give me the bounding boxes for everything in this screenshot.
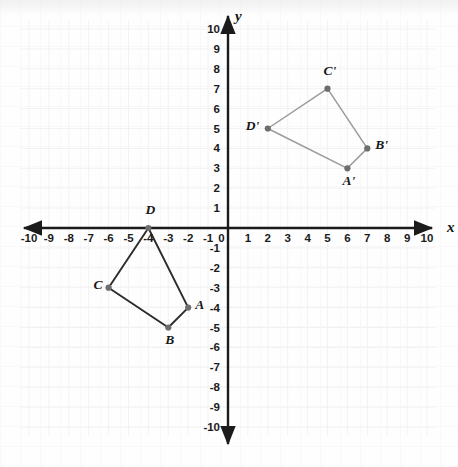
- x-tick--8: -8: [58, 232, 80, 244]
- x-tick--3: -3: [157, 232, 179, 244]
- vertex-label-Dprime: D': [246, 119, 260, 132]
- y-tick-10: 10: [196, 23, 220, 35]
- vertex-dot-Dprime: [265, 125, 271, 131]
- y-tick--4: -4: [196, 302, 220, 314]
- vertex-dot-Aprime: [344, 165, 350, 171]
- x-axis-label: x: [447, 219, 455, 236]
- y-tick--3: -3: [196, 282, 220, 294]
- x-tick--6: -6: [98, 232, 120, 244]
- x-tick-2: 2: [257, 232, 279, 244]
- x-tick-8: 8: [376, 232, 398, 244]
- y-tick-8: 8: [196, 63, 220, 75]
- vertex-dot-C: [106, 285, 112, 291]
- y-tick-7: 7: [196, 83, 220, 95]
- vertex-dot-Bprime: [364, 145, 370, 151]
- vertex-dot-Cprime: [324, 86, 330, 92]
- y-tick--6: -6: [196, 341, 220, 353]
- y-tick--8: -8: [196, 381, 220, 393]
- y-tick--5: -5: [196, 322, 220, 334]
- vertex-dot-A: [185, 305, 191, 311]
- y-tick--7: -7: [196, 361, 220, 373]
- x-tick--9: -9: [38, 232, 60, 244]
- x-tick--10: -10: [18, 232, 40, 244]
- y-tick--2: -2: [196, 262, 220, 274]
- x-tick-3: 3: [277, 232, 299, 244]
- vertex-label-Cprime: C': [324, 64, 337, 77]
- y-tick--1: -1: [196, 242, 220, 254]
- x-tick-9: 9: [396, 232, 418, 244]
- y-tick--10: -10: [196, 421, 220, 433]
- vertex-label-Bprime: B': [375, 138, 388, 151]
- vertex-label-Aprime: A': [342, 174, 355, 187]
- vertex-dot-B: [165, 324, 171, 330]
- y-tick-6: 6: [196, 103, 220, 115]
- vertex-label-B: B: [165, 333, 174, 346]
- y-tick-4: 4: [196, 142, 220, 154]
- y-axis-label: y: [235, 8, 242, 25]
- y-tick-2: 2: [196, 182, 220, 194]
- y-tick--9: -9: [196, 401, 220, 413]
- x-tick--4: -4: [137, 232, 159, 244]
- y-tick-5: 5: [196, 123, 220, 135]
- vertex-label-C: C: [94, 278, 103, 291]
- x-tick-6: 6: [336, 232, 358, 244]
- x-tick-7: 7: [356, 232, 378, 244]
- y-tick-3: 3: [196, 162, 220, 174]
- y-tick-9: 9: [196, 43, 220, 55]
- x-tick--5: -5: [118, 232, 140, 244]
- x-tick-5: 5: [317, 232, 339, 244]
- vertex-dot-D: [145, 225, 151, 231]
- x-tick-4: 4: [297, 232, 319, 244]
- x-tick-1: 1: [237, 232, 259, 244]
- vertex-label-D: D: [145, 203, 155, 216]
- x-tick-10: 10: [416, 232, 438, 244]
- x-tick--7: -7: [78, 232, 100, 244]
- y-tick-1: 1: [196, 202, 220, 214]
